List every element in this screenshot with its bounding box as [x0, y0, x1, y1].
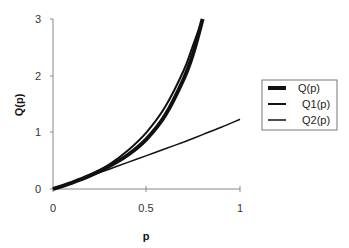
chart: 3 2 1 0 Q(p) 0 0.5 1 p Q(p) Q1(p) Q2(p)	[0, 0, 349, 248]
series-line-qp	[53, 19, 203, 189]
y-axis: 3 2 1 0 Q(p)	[13, 13, 53, 195]
y-tick-label: 3	[35, 13, 41, 25]
y-axis-title: Q(p)	[13, 93, 25, 116]
plot-area	[53, 19, 240, 189]
legend-label: Q(p)	[298, 82, 320, 94]
series-line-q1p	[53, 19, 203, 189]
x-tick-label: 0.5	[138, 202, 153, 214]
x-tick-label: 1	[237, 202, 243, 214]
y-tick-label: 2	[35, 70, 41, 82]
legend: Q(p) Q1(p) Q2(p)	[262, 80, 337, 130]
legend-label: Q1(p)	[302, 98, 330, 110]
y-tick-label: 0	[35, 183, 41, 195]
legend-label: Q2(p)	[302, 114, 330, 126]
x-axis-title: p	[143, 230, 150, 242]
y-tick-label: 1	[35, 126, 41, 138]
x-axis: 0 0.5 1 p	[50, 186, 243, 242]
x-tick-label: 0	[50, 202, 56, 214]
